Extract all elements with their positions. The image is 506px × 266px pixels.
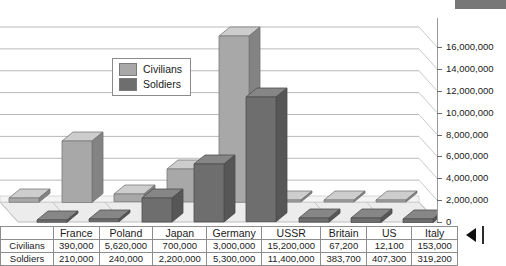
bar-soldiers-japan [142,189,172,222]
chart-legend: Civilians Soldiers [112,58,191,96]
table-col-header: Britain [321,227,367,240]
bar-soldiers-italy [403,210,433,222]
plot-area: Civilians Soldiers [0,0,437,232]
table-corner [1,227,54,240]
bar-civilians-poland [62,132,92,202]
y-tick-mark [437,69,442,70]
data-table: FrancePolandJapanGermanyUSSRBritainUSIta… [0,226,458,266]
table-cell: 383,700 [321,253,367,266]
legend-item-civilians: Civilians [119,63,182,76]
bar-civilians-france [9,189,39,202]
table-col-header: USSR [262,227,321,240]
table-cell: 390,000 [54,240,100,253]
y-tick-label: 4,000,000 [446,172,488,183]
y-tick-label: 10,000,000 [446,107,494,118]
table-row-header: Soldiers [1,253,54,266]
bar-soldiers-poland [89,210,119,222]
bar-soldiers-ussr [246,88,276,222]
table-col-header: France [54,227,100,240]
table-col-header: Italy [412,227,458,240]
table-cell: 5,300,000 [207,253,262,266]
left-arrow-icon[interactable] [466,228,476,242]
bar-civilians-us [324,191,354,202]
bar-civilians-japan [114,185,144,202]
table-cell: 2,200,000 [153,253,207,266]
table-cell: 67,200 [321,240,367,253]
bar-soldiers-us [351,209,381,222]
table-col-header: Japan [153,227,207,240]
y-tick-label: 8,000,000 [446,129,488,140]
legend-item-soldiers: Soldiers [119,78,182,91]
legend-swatch-civilians [119,63,137,76]
table-cell: 5,620,000 [99,240,153,253]
table-col-header: Germany [207,227,262,240]
table-cell: 11,400,000 [262,253,321,266]
legend-label-civilians: Civilians [143,64,182,75]
y-axis: 02,000,0004,000,0006,000,0008,000,00010,… [437,0,506,232]
scrollbar-edge[interactable] [482,226,484,244]
y-tick-label: 14,000,000 [446,63,494,74]
legend-label-soldiers: Soldiers [143,79,181,90]
y-tick-label: 12,000,000 [446,85,494,96]
y-tick-mark [437,200,442,201]
y-tick-mark [437,178,442,179]
table-col-header: US [366,227,412,240]
bar-soldiers-germany [194,155,224,222]
table-col-header: Poland [99,227,153,240]
legend-swatch-soldiers [119,78,137,91]
table-cell: 700,000 [153,240,207,253]
table-cell: 319,200 [412,253,458,266]
table-cell: 15,200,000 [262,240,321,253]
y-tick-mark [437,47,442,48]
top-right-artifact [455,0,506,9]
y-tick-mark [437,135,442,136]
y-tick-label: 2,000,000 [446,194,488,205]
table-cell: 210,000 [54,253,100,266]
table-row: Civilians390,0005,620,000700,0003,000,00… [1,240,458,253]
bar-soldiers-britain [299,209,329,222]
casualties-chart: Civilians Soldiers 02,000,0004,000,0006,… [0,0,506,266]
y-tick-mark [437,113,442,114]
y-tick-mark [437,91,442,92]
bar-soldiers-france [37,211,67,222]
y-tick-label: 6,000,000 [446,150,488,161]
data-table-wrap: FrancePolandJapanGermanyUSSRBritainUSIta… [0,226,458,266]
y-tick-label: 16,000,000 [446,41,494,52]
y-tick-mark [437,156,442,157]
table-row-header: Civilians [1,240,54,253]
table-row: Soldiers210,000240,0002,200,0005,300,000… [1,253,458,266]
table-cell: 240,000 [99,253,153,266]
table-cell: 3,000,000 [207,240,262,253]
bar-civilians-italy [376,191,406,202]
table-cell: 153,000 [412,240,458,253]
table-cell: 407,300 [366,253,412,266]
table-cell: 12,100 [366,240,412,253]
y-tick-mark [437,222,442,223]
